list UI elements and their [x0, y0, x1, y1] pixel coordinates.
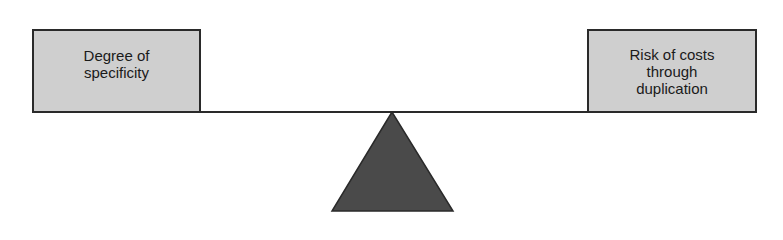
right-weight-box: Risk of costs through duplication	[587, 29, 757, 113]
left-weight-label: Degree of specificity	[84, 47, 150, 81]
left-weight-box: Degree of specificity	[32, 29, 201, 113]
fulcrum-triangle-icon	[330, 111, 456, 213]
right-weight-label: Risk of costs through duplication	[629, 46, 714, 97]
